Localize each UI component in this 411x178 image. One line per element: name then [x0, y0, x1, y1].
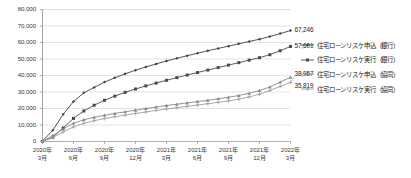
x-tick-label-month: 6月 [57, 154, 91, 162]
legend-label: 住宅ローンリスケ実行（銀行） [317, 55, 399, 64]
x-tick-label-year: 2021年 [243, 146, 277, 154]
x-tick-label-month: 12月 [119, 154, 153, 162]
x-tick-label-month: 12月 [243, 154, 277, 162]
y-tick-label: 30,000 [2, 88, 36, 95]
legend-item[interactable]: 住宅ローンリスケ申込（銀行） [300, 38, 410, 53]
x-tick-label: 2022年3月 [274, 146, 308, 163]
x-tick-label-year: 2020年 [57, 146, 91, 154]
legend-item[interactable]: 住宅ローンリスケ実行（協同） [300, 82, 410, 97]
legend-label: 住宅ローンリスケ実行（協同） [317, 85, 399, 94]
y-tick-label: 0 [2, 137, 36, 144]
legend-marker-icon [300, 69, 315, 79]
legend-item[interactable]: 住宅ローンリスケ申込（協同） [300, 67, 410, 82]
x-tick-label-month: 9月 [212, 154, 246, 162]
y-tick-label: 50,000 [2, 55, 36, 62]
x-tick-label-year: 2020年 [88, 146, 122, 154]
x-tick-label: 2020年3月 [26, 146, 60, 163]
x-tick-label-year: 2020年 [26, 146, 60, 154]
legend-marker-icon [300, 40, 315, 50]
y-tick-label: 80,000 [2, 5, 36, 12]
y-tick-label: 20,000 [2, 104, 36, 111]
x-tick-label: 2021年3月 [150, 146, 184, 163]
x-tick-label-year: 2020年 [119, 146, 153, 154]
x-tick-label-year: 2021年 [150, 146, 184, 154]
x-tick-label-year: 2022年 [274, 146, 308, 154]
x-tick-label-month: 3月 [150, 154, 184, 162]
x-tick-label: 2021年12月 [243, 146, 277, 163]
chart-legend: 住宅ローンリスケ申込（銀行）住宅ローンリスケ実行（銀行）住宅ローンリスケ申込（協… [300, 38, 410, 96]
y-tick-label: 70,000 [2, 22, 36, 29]
x-tick-label: 2020年9月 [88, 146, 122, 163]
x-tick-label-month: 3月 [274, 154, 308, 162]
legend-label: 住宅ローンリスケ申込（協同） [317, 70, 399, 79]
series-end-label: 67,246 [295, 26, 314, 33]
x-tick-label-year: 2021年 [181, 146, 215, 154]
x-tick-label-year: 2021年 [212, 146, 246, 154]
x-tick-label-month: 6月 [181, 154, 215, 162]
x-tick-label: 2021年6月 [181, 146, 215, 163]
legend-label: 住宅ローンリスケ申込（銀行） [317, 41, 399, 50]
y-tick-label: 40,000 [2, 71, 36, 78]
y-tick-label: 60,000 [2, 38, 36, 45]
legend-marker-icon [300, 84, 315, 94]
x-tick-label-month: 9月 [88, 154, 122, 162]
x-tick-label: 2021年9月 [212, 146, 246, 163]
x-tick-label: 2020年6月 [57, 146, 91, 163]
y-tick-label: 10,000 [2, 121, 36, 128]
legend-marker-icon [300, 55, 315, 65]
x-tick-label: 2020年12月 [119, 146, 153, 163]
series-line-3 [41, 80, 293, 143]
x-tick-label-month: 3月 [26, 154, 60, 162]
chart-container: 80,00070,00060,00050,00040,00030,00020,0… [0, 0, 411, 178]
legend-item[interactable]: 住宅ローンリスケ実行（銀行） [300, 53, 410, 68]
